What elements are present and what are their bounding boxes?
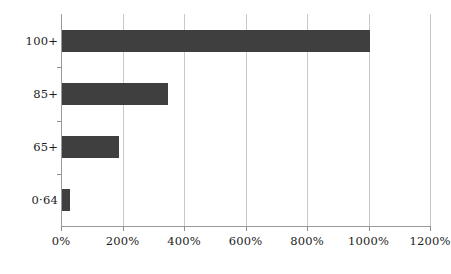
x-tick-label: 1200% <box>409 234 450 248</box>
plot-area <box>61 14 430 227</box>
gridline <box>430 14 431 227</box>
bar <box>62 30 370 52</box>
x-tick-mark <box>123 226 124 231</box>
x-tick-label: 1000% <box>348 234 389 248</box>
x-tick-label: 400% <box>167 234 201 248</box>
x-tick-label: 200% <box>106 234 140 248</box>
y-tick-label: 65+ <box>33 140 58 154</box>
y-tick-label: 0·64 <box>32 193 58 207</box>
y-tick-label: 85+ <box>33 87 58 101</box>
x-tick-mark <box>184 226 185 231</box>
x-tick-mark <box>246 226 247 231</box>
bar <box>62 83 168 105</box>
x-tick-label: 600% <box>229 234 263 248</box>
y-tick-mark <box>57 174 62 175</box>
x-tick-mark <box>430 226 431 231</box>
x-tick-mark <box>307 226 308 231</box>
x-tick-mark <box>369 226 370 231</box>
y-tick-label: 100+ <box>26 34 58 48</box>
x-tick-label: 800% <box>290 234 324 248</box>
y-tick-mark <box>57 121 62 122</box>
bar <box>62 136 119 158</box>
bar <box>62 189 70 211</box>
y-tick-mark <box>57 67 62 68</box>
x-tick-mark <box>61 226 62 231</box>
x-tick-label: 0% <box>52 234 71 248</box>
